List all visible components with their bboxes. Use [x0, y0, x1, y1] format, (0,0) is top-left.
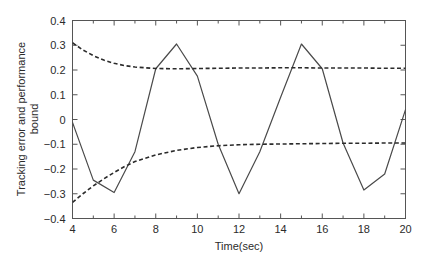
y-tick-label: −0.2: [44, 163, 66, 175]
x-tick-label: 20: [399, 223, 411, 235]
y-axis-title-line2: bound: [28, 104, 40, 135]
x-axis-title: Time(sec): [215, 240, 263, 252]
x-axis-title-text: Time(sec): [215, 240, 263, 252]
x-tick-label: 16: [316, 223, 328, 235]
y-tick-label: 0.2: [50, 64, 65, 76]
x-tick-label: 6: [111, 223, 117, 235]
y-tick-label: 0.4: [50, 15, 65, 27]
y-axis-title-line1: Tracking error and performance: [15, 42, 27, 196]
y-tick-label: 0.3: [50, 39, 65, 51]
x-tick-label: 12: [233, 223, 245, 235]
x-tick-label: 8: [153, 223, 159, 235]
y-tick-label: 0.1: [50, 89, 65, 101]
x-tick-label: 18: [358, 223, 370, 235]
y-tick-label: −0.3: [44, 188, 66, 200]
x-tick-label: 14: [275, 223, 287, 235]
x-tick-label: 4: [69, 223, 75, 235]
figure-container: 468101214161820−0.4−0.3−0.2−0.100.10.20.…: [0, 0, 424, 257]
y-tick-label: −0.4: [44, 213, 66, 225]
y-tick-label: −0.1: [44, 138, 66, 150]
y-tick-label: 0: [59, 114, 65, 126]
x-tick-label: 10: [191, 223, 203, 235]
tracking-error-chart: 468101214161820−0.4−0.3−0.2−0.100.10.20.…: [0, 0, 424, 257]
